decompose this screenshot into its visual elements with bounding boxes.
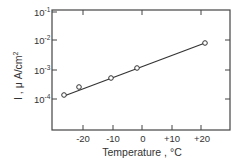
x-tick-labels: -20 -10 0 +10 +20 bbox=[76, 133, 210, 144]
data-point bbox=[135, 66, 140, 71]
fit-line bbox=[64, 43, 205, 96]
y-tick-labels: 10-1 10-2 10-3 10-4 bbox=[34, 6, 51, 105]
x-tick-label: 0 bbox=[140, 133, 145, 144]
x-tick-label: +20 bbox=[194, 133, 210, 144]
y-tick-label: 10-3 bbox=[34, 64, 51, 76]
x-axis-title: Temperature , °C bbox=[102, 146, 182, 158]
x-tick-label: -20 bbox=[76, 133, 90, 144]
y-axis-title: I , μ A/cm2 bbox=[12, 51, 24, 100]
x-tick-label: +10 bbox=[164, 133, 180, 144]
plot-frame bbox=[52, 10, 230, 130]
x-axis bbox=[83, 10, 201, 130]
data-point bbox=[62, 93, 67, 98]
chart: 10-1 10-2 10-3 10-4 -20 -10 0 +10 +20 Te… bbox=[0, 0, 242, 162]
y-tick-label: 10-1 bbox=[34, 6, 51, 18]
x-tick-label: -10 bbox=[106, 133, 120, 144]
data-point bbox=[109, 76, 114, 81]
y-tick-label: 10-4 bbox=[34, 93, 51, 105]
data-point bbox=[77, 85, 82, 90]
y-tick-label: 10-2 bbox=[34, 34, 51, 46]
data-point bbox=[203, 41, 208, 46]
